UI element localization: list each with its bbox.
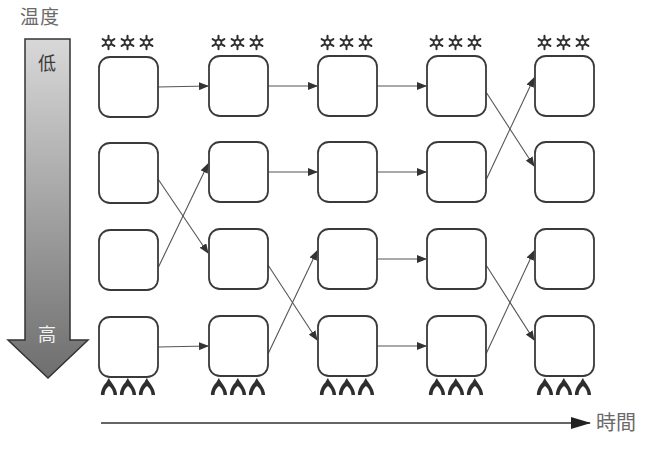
flame-icon (339, 378, 355, 395)
snowflake-icon (141, 36, 153, 50)
transition-arrow (158, 164, 208, 268)
replica-box (99, 57, 158, 117)
snowflake-icon (341, 36, 353, 50)
replica-box (209, 142, 268, 202)
snowflake-icon (469, 36, 481, 50)
replica-box (427, 142, 486, 202)
flame-icon (120, 378, 136, 395)
replica-box (535, 229, 594, 289)
flame-icon (211, 378, 227, 395)
snowflake-icon (251, 36, 263, 50)
replica-box (99, 317, 158, 377)
replica-box (427, 229, 486, 289)
transition-arrow (486, 251, 534, 354)
snowflake-icon (450, 36, 462, 50)
transition-arrow (158, 86, 208, 87)
snowflake-icon (322, 36, 334, 50)
flame-icon (139, 378, 155, 395)
flame-icon (429, 378, 445, 395)
flame-icon (101, 378, 117, 395)
snowflake-icon (213, 36, 225, 50)
transition-arrow (158, 346, 208, 347)
snowflake-icon (577, 36, 589, 50)
replica-box (318, 56, 377, 116)
flame-icon (556, 378, 572, 395)
replica-box (209, 229, 268, 289)
snowflake-icon (232, 36, 244, 50)
time-axis-label: 時間 (596, 413, 636, 433)
snowflake-icon (558, 36, 570, 50)
transition-arrows (158, 78, 534, 354)
replica-box (209, 56, 268, 116)
replica-box (535, 142, 594, 202)
low-temperature-label: 低 (38, 55, 56, 73)
transition-arrow (486, 78, 534, 180)
replica-box (99, 143, 158, 203)
replica-box (318, 316, 377, 376)
replica-box (427, 56, 486, 116)
snowflake-icon (122, 36, 134, 50)
replica-box (535, 316, 594, 376)
flame-icon (467, 378, 483, 395)
snowflake-icon (431, 36, 443, 50)
high-temperature-label: 高 (38, 326, 56, 344)
flame-icon (230, 378, 246, 395)
flame-icon (320, 378, 336, 395)
replica-box (427, 316, 486, 376)
flame-icon (358, 378, 374, 395)
temperature-axis-label: 温度 (20, 8, 60, 27)
flame-icon (249, 378, 265, 395)
flame-icon (448, 378, 464, 395)
replica-box (99, 230, 158, 290)
replica-exchange-diagram (0, 0, 653, 453)
replica-box (318, 142, 377, 202)
flame-icon (537, 378, 553, 395)
snowflake-icon (539, 36, 551, 50)
replica-box (535, 56, 594, 116)
replica-boxes (99, 56, 594, 377)
flame-icon (575, 378, 591, 395)
snowflake-icon (103, 36, 115, 50)
transition-arrow (268, 251, 317, 354)
replica-box (209, 316, 268, 376)
snowflake-icon (360, 36, 372, 50)
replica-box (318, 229, 377, 289)
